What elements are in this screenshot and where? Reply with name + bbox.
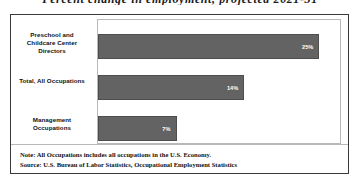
- category-label-line: Childcare Center: [11, 39, 93, 47]
- category-label-preschool-directors: Preschool and Childcare Center Directors: [11, 31, 93, 56]
- category-label-line: Occupations: [11, 124, 93, 132]
- category-label-total-all-occupations: Total, All Occupations: [11, 77, 93, 85]
- category-label-line: Total, All Occupations: [11, 77, 93, 85]
- footnote-source: Source: U.S. Bureau of Labor Statistics,…: [20, 160, 348, 170]
- bar-total-all-occupations: 14%: [98, 75, 244, 100]
- category-label-management-occupations: Management Occupations: [11, 116, 93, 132]
- figure-container: Preschool and Childcare Center Directors…: [10, 14, 349, 174]
- plot-area: 25% 14% 7%: [97, 19, 341, 144]
- bar-value-label: 25%: [302, 44, 314, 50]
- category-label-line: Preschool and: [11, 31, 93, 39]
- category-label-line: Management: [11, 116, 93, 124]
- chart-title-clipped: Percent change in employment, projected …: [0, 0, 360, 5]
- footnote-note: Note: All Occupations includes all occup…: [20, 150, 348, 160]
- bar-value-label: 14%: [227, 85, 239, 91]
- bar-value-label: 7%: [162, 126, 170, 132]
- footnote-block: Note: All Occupations includes all occup…: [11, 144, 348, 173]
- bars-group: 25% 14% 7%: [98, 20, 340, 143]
- chart-title-text: Percent change in employment, projected …: [42, 0, 318, 5]
- category-label-line: Directors: [11, 47, 93, 55]
- bar-management-occupations: 7%: [98, 116, 177, 141]
- chart-region: Preschool and Childcare Center Directors…: [11, 15, 348, 145]
- category-axis: Preschool and Childcare Center Directors…: [11, 15, 97, 145]
- bar-preschool-directors: 25%: [98, 34, 319, 59]
